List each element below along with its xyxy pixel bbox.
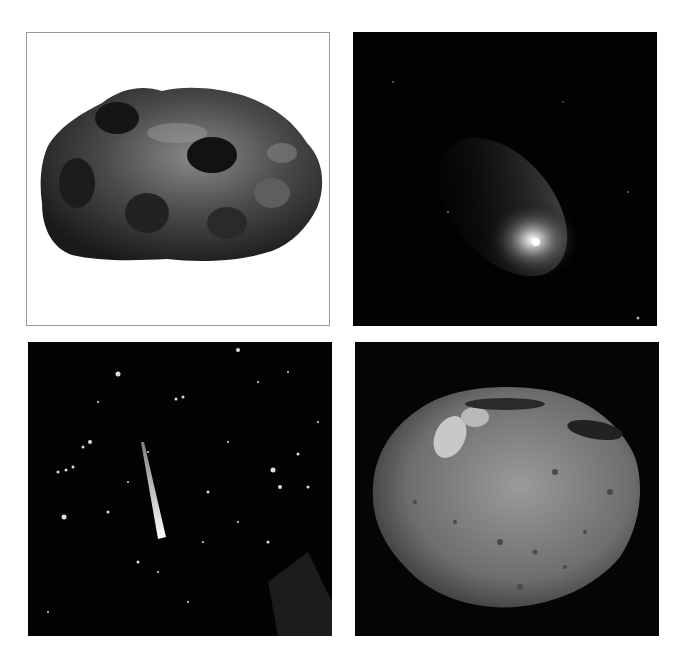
meteor-illustration (28, 342, 332, 636)
meteorite-rock-image: Meteorite rock (26, 32, 330, 326)
meteor-image: Meteor streak in starry sky (28, 342, 332, 636)
asteroid-illustration (355, 342, 659, 636)
asteroid-image: Asteroid (355, 342, 659, 636)
comet-image: Comet (353, 32, 657, 326)
rock-illustration (27, 33, 329, 325)
comet-illustration (353, 32, 657, 326)
